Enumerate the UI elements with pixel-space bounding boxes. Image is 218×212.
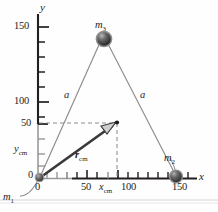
triangle-sides — [40, 38, 176, 177]
x-tick-label-150: 150 — [172, 182, 187, 193]
y-tick-label-50: 50 — [21, 118, 31, 129]
y-tick-label-150: 150 — [14, 21, 29, 32]
m2-subscript: 2 — [172, 158, 176, 166]
ycm-axis-label: ycm — [14, 144, 27, 157]
m3-symbol: m — [95, 19, 103, 30]
m2-symbol: m — [164, 152, 172, 163]
page-rules — [0, 200, 218, 203]
y-tick-label-100: 100 — [14, 96, 29, 107]
center-of-mass-figure: y x 150 100 50 0 ycm 0 50 100 150 xcm m3… — [0, 0, 218, 212]
side-label-a-right: a — [140, 90, 145, 101]
xcm-subscript: cm — [104, 187, 113, 195]
x-tick-label-0: 0 — [35, 182, 40, 193]
sphere-m3 — [96, 31, 111, 46]
ycm-subscript: cm — [19, 149, 28, 157]
y-axis-ticks — [38, 27, 49, 166]
m3-subscript: 3 — [103, 25, 107, 33]
m1-subscript: 1 — [11, 197, 15, 205]
x-tick-label-100: 100 — [121, 182, 136, 193]
side-label-a-left: a — [64, 90, 69, 101]
y-axis-title: y — [40, 2, 45, 13]
mass-label-m3: m3 — [95, 20, 106, 33]
xcm-axis-label: xcm — [99, 182, 112, 195]
mass-spheres — [35, 31, 182, 183]
mass-label-m2: m2 — [164, 153, 175, 166]
mass-label-m1: m1 — [3, 192, 14, 205]
y-tick-label-0: 0 — [28, 170, 33, 181]
x-tick-label-50: 50 — [81, 182, 91, 193]
x-axis-title: x — [199, 171, 204, 182]
rcm-subscript: cm — [79, 155, 88, 163]
center-of-mass-point — [115, 120, 119, 124]
rcm-label: rcm — [75, 150, 88, 163]
m1-symbol: m — [3, 191, 11, 202]
